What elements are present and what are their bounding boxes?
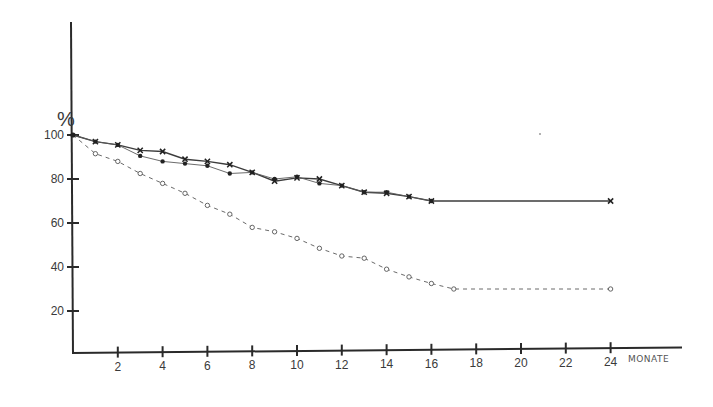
y-tick-label: 40: [51, 260, 65, 274]
open-circle-marker: [250, 225, 254, 229]
open-circle-marker: [429, 281, 433, 285]
series-lines: [73, 135, 611, 289]
x-tick-label: 18: [470, 356, 484, 370]
series-line-open-circle: [73, 135, 611, 289]
open-circle-marker: [160, 181, 164, 185]
filled-dot-marker: [205, 164, 209, 168]
series-markers: [70, 132, 613, 291]
filled-dot-marker: [183, 161, 187, 165]
open-circle-marker: [116, 159, 120, 163]
open-circle-marker: [228, 212, 232, 216]
open-circle-marker: [295, 236, 299, 240]
filled-dot-marker: [160, 159, 164, 163]
x-tick-label: 22: [559, 356, 573, 370]
open-circle-marker: [608, 287, 612, 291]
y-axis-unit-label: %: [57, 108, 75, 130]
open-circle-marker: [452, 287, 456, 291]
x-tick-label: 12: [335, 358, 349, 372]
x-tick-label: 8: [249, 358, 256, 372]
y-axis-line: [71, 22, 73, 354]
filled-dot-marker: [228, 171, 232, 175]
scan-speck: [539, 133, 541, 135]
open-circle-marker: [384, 267, 388, 271]
series-line-filled-circle: [73, 135, 431, 201]
x-tick-label: 6: [204, 359, 211, 373]
open-circle-marker: [340, 254, 344, 258]
origin-marker: [70, 132, 75, 137]
open-circle-marker: [407, 275, 411, 279]
y-tick-label: 60: [51, 216, 65, 230]
x-tick-label: 10: [290, 358, 304, 372]
x-tick-label: 20: [514, 356, 528, 370]
open-circle-marker: [205, 203, 209, 207]
x-tick-label: 24: [604, 355, 618, 369]
filled-dot-marker: [317, 181, 321, 185]
y-tick-label: 80: [51, 172, 65, 186]
x-tick-label: 2: [114, 360, 121, 374]
open-circle-marker: [183, 191, 187, 195]
open-circle-marker: [317, 246, 321, 250]
y-tick-label: 20: [51, 304, 65, 318]
x-tick-label: 14: [380, 357, 394, 371]
open-circle-marker: [93, 152, 97, 156]
open-circle-marker: [138, 171, 142, 175]
x-tick-label: 16: [425, 357, 439, 371]
x-tick-label: 4: [159, 359, 166, 373]
x-axis-unit-label: MONATE: [628, 354, 669, 364]
y-tick-label: 100: [44, 128, 64, 142]
open-circle-marker: [272, 230, 276, 234]
filled-dot-marker: [138, 154, 142, 158]
open-circle-marker: [362, 256, 366, 260]
axes: 2040608010024681012141618202224: [44, 22, 682, 374]
survival-line-chart: 2040608010024681012141618202224 % MONATE: [0, 0, 713, 407]
series-line-x: [73, 135, 611, 201]
